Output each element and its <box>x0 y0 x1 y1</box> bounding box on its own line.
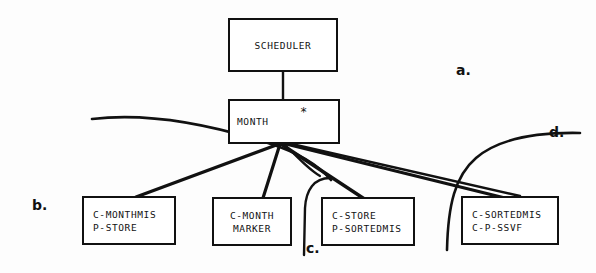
asterisk-annotation: * <box>300 106 307 118</box>
node-c-monthmis[interactable]: C-MONTHMIS P-STORE <box>82 196 176 245</box>
arc-store-upper <box>285 145 320 176</box>
diagram-canvas: SCHEDULER MONTH * C-MONTHMIS P-STORE C-M… <box>0 0 596 273</box>
node-c-month-marker-line2: MARKER <box>214 222 290 235</box>
node-month-line1: MONTH <box>230 115 338 128</box>
callout-label-b: b. <box>32 197 47 213</box>
node-c-sortedmis-line1: C-SORTEDMIS <box>463 208 557 221</box>
callout-label-a: a. <box>456 62 471 78</box>
node-c-month-marker[interactable]: C-MONTH MARKER <box>212 197 292 246</box>
connector-month-sortedmis <box>282 143 505 198</box>
node-month[interactable]: MONTH <box>228 99 340 144</box>
node-c-store-line1: C-STORE <box>323 209 413 222</box>
connector-month-monthmarker <box>263 144 280 198</box>
node-c-monthmis-line1: C-MONTHMIS <box>84 208 174 221</box>
node-c-store[interactable]: C-STORE P-SORTEDMIS <box>321 197 415 246</box>
node-scheduler[interactable]: SCHEDULER <box>228 18 338 72</box>
connector-month-far-right <box>283 142 520 196</box>
node-scheduler-line1: SCHEDULER <box>230 39 336 52</box>
node-c-sortedmis-line2: C-P-SSVF <box>463 221 557 234</box>
connector-month-monthmis <box>136 144 279 197</box>
callout-label-d: d. <box>549 124 564 140</box>
callout-label-c: c. <box>306 240 320 256</box>
node-c-month-marker-line1: C-MONTH <box>214 209 290 222</box>
connector-month-store <box>281 144 366 200</box>
node-c-sortedmis[interactable]: C-SORTEDMIS C-P-SSVF <box>461 196 559 245</box>
node-c-monthmis-line2: P-STORE <box>84 221 174 234</box>
node-c-store-line2: P-SORTEDMIS <box>323 222 413 235</box>
